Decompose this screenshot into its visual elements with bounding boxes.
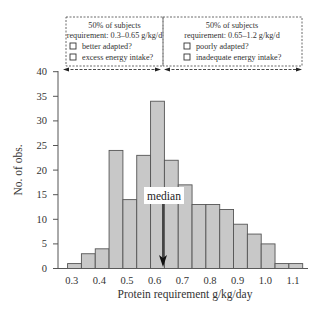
annotation-right-line-2: requirement: 0.65–1.2 g/kg/d [184,31,280,40]
annotation-right-check-2: inadequate energy intake? [196,53,282,62]
histogram-bar [247,234,261,268]
histogram-bar [95,249,109,269]
checkbox-icon [70,43,76,49]
histogram-bar [220,209,234,268]
annotation-left-check-2: excess energy intake? [82,53,154,62]
y-tick-label: 30 [37,115,48,126]
checkbox-icon [70,54,76,60]
median-label: median [147,190,181,202]
x-tick-label: 0.4 [93,275,107,286]
checkbox-icon [184,54,190,60]
histogram-chart: 50% of subjects requirement: 0.3–0.65 g/… [0,0,322,311]
arrowhead-icon [164,68,170,72]
x-tick-label: 1.0 [259,275,272,286]
annotation-left-line-2: requirement: 0.3–0.65 g/kg/d [67,31,163,40]
x-tick-label: 0.5 [120,275,133,286]
y-tick-label: 5 [42,238,47,249]
annotation-right-line-1: 50% of subjects [206,21,258,30]
histogram-bar [68,264,82,269]
annotation-left: 50% of subjects requirement: 0.3–0.65 g/… [66,17,163,66]
arrowhead-icon [63,68,69,72]
x-tick-label: 0.9 [231,275,244,286]
bars-group [68,101,303,268]
annotation-right-check-1: poorly adapted? [196,42,249,51]
x-tick-label: 0.7 [176,275,189,286]
y-tick-label: 40 [37,66,48,77]
x-tick-label: 0.3 [65,275,78,286]
checkbox-icon [184,43,190,49]
histogram-bar [123,200,137,269]
y-tick-label: 35 [37,91,48,102]
y-ticks-group: 0510152025303540 [37,66,59,274]
histogram-bar [234,224,248,268]
range-arrows [63,68,302,72]
histogram-bar [81,254,95,269]
x-tick-label: 0.6 [148,275,161,286]
y-axis-label: No. of obs. [12,144,24,195]
annotation-right: 50% of subjects requirement: 0.65–1.2 g/… [163,17,302,66]
x-tick-label: 1.1 [286,275,299,286]
y-tick-label: 0 [42,263,47,274]
histogram-bar [164,160,178,268]
y-tick-label: 10 [37,214,48,225]
histogram-bar [137,155,151,268]
y-tick-label: 25 [37,140,48,151]
histogram-bar [109,150,123,268]
histogram-bar [289,264,303,269]
histogram-bar [275,264,289,269]
x-tick-label: 0.8 [203,275,216,286]
histogram-bar [192,205,206,269]
histogram-bar [206,205,220,269]
x-axis-label: Protein requirement g/kg/day [118,288,253,301]
annotation-left-check-1: better adapted? [82,42,132,51]
arrowhead-icon [296,68,302,72]
annotation-left-line-1: 50% of subjects [88,21,140,30]
x-ticks-group: 0.30.40.50.60.70.80.91.01.1 [65,275,299,286]
y-tick-label: 20 [37,165,48,176]
histogram-bar [261,244,275,269]
y-tick-label: 15 [37,189,48,200]
arrowhead-icon [155,68,161,72]
